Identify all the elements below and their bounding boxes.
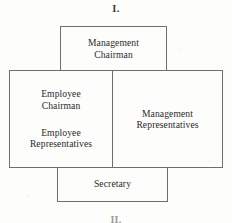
employee-chairman-label: Employee Chairman: [41, 88, 81, 111]
management-representatives-label: Management Representatives: [136, 108, 198, 131]
figure-number-top: I.: [0, 3, 232, 14]
box-management-chairman-label: Management Chairman: [88, 37, 139, 60]
box-management-chairman: Management Chairman: [60, 26, 167, 70]
box-secretary: Secretary: [57, 167, 168, 202]
cell-employee-side: Employee Chairman Employee Representativ…: [10, 71, 112, 167]
cell-management-side: Management Representatives: [113, 71, 222, 167]
figure-number-bottom: II.: [0, 214, 232, 223]
box-secretary-label: Secretary: [94, 178, 131, 189]
employee-representatives-label: Employee Representatives: [30, 127, 92, 150]
figure-canvas: I. Management Chairman Employee Chairman…: [0, 0, 232, 223]
